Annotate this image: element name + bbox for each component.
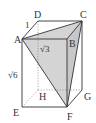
vertex-label-f: F [67,111,73,122]
vertex-label-b: B [69,38,76,49]
prism-diagram: D C A B H G E F 1 √3 √6 [0,0,96,123]
vertex-label-c: C [80,9,87,20]
edge-eh [22,90,38,107]
edge-label-ae: √6 [8,70,18,80]
vertex-label-a: A [14,34,22,45]
vertex-label-e: E [13,107,19,118]
edge-label-ad: 1 [25,20,30,30]
vertex-label-g: G [84,91,91,102]
vertex-label-d: D [34,9,41,20]
vertex-label-h: H [39,91,46,102]
edge-label-ab: √3 [40,44,50,54]
